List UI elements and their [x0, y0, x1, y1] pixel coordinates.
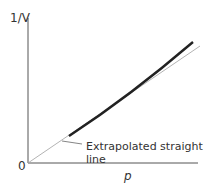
callout-leader: [62, 141, 82, 144]
origin-label: 0: [18, 160, 26, 172]
annotation-label: Extrapolated straight line: [86, 140, 203, 166]
x-axis-label: p: [124, 170, 132, 182]
annotation-line-1: Extrapolated straight: [86, 140, 203, 153]
y-axis-label: 1/V: [10, 12, 30, 24]
measured-curve: [69, 42, 193, 136]
annotation-line-2: line: [86, 153, 203, 166]
